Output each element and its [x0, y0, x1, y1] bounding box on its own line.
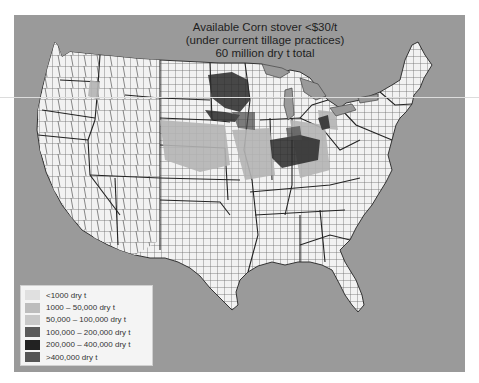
legend-swatch: [25, 352, 40, 362]
legend-swatch: [25, 290, 40, 300]
legend: <1000 dry t 1000 – 50,000 dry t 50,000 –…: [20, 285, 153, 366]
title-line-2: (under current tillage practices): [150, 34, 380, 47]
legend-label: 100,000 – 200,000 dry t: [46, 328, 131, 337]
legend-label: 50,000 – 100,000 dry t: [46, 315, 126, 324]
legend-label: 1000 – 50,000 dry t: [46, 303, 115, 312]
horizontal-guide-line: [0, 97, 479, 98]
legend-item: 1000 – 50,000 dry t: [25, 301, 148, 313]
legend-item: 50,000 – 100,000 dry t: [25, 314, 148, 326]
legend-item: 100,000 – 200,000 dry t: [25, 326, 148, 338]
legend-item: 200,000 – 400,000 dry t: [25, 339, 148, 351]
legend-item: <1000 dry t: [25, 289, 148, 301]
legend-swatch: [25, 327, 40, 337]
title-line-1: Available Corn stover <$30/t: [150, 21, 380, 34]
legend-label: <1000 dry t: [46, 291, 86, 300]
legend-swatch: [25, 303, 40, 313]
legend-item: >400,000 dry t: [25, 351, 148, 363]
legend-swatch: [25, 340, 40, 350]
title-line-3: 60 million dry t total: [150, 47, 380, 60]
legend-label: 200,000 – 400,000 dry t: [46, 340, 131, 349]
legend-label: >400,000 dry t: [46, 353, 97, 362]
legend-swatch: [25, 315, 40, 325]
map-title: Available Corn stover <$30/t (under curr…: [150, 21, 380, 60]
